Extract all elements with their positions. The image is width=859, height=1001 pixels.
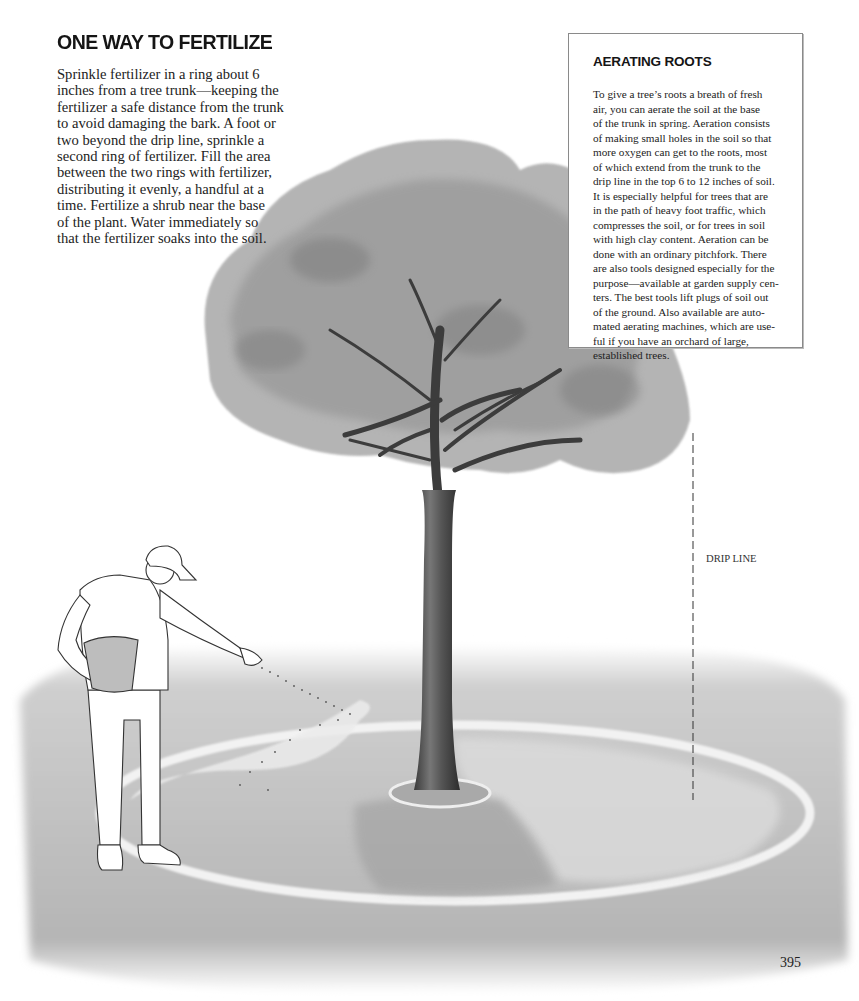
sidebar-title: AERATING ROOTS bbox=[593, 54, 711, 69]
article-line: distributing it evenly, a handful at a bbox=[57, 181, 307, 197]
article-line: to avoid damaging the bark. A foot or bbox=[57, 115, 307, 131]
page-number: 395 bbox=[780, 955, 801, 971]
sidebar-line: are also tools designed especially for t… bbox=[593, 261, 789, 276]
sidebar-line: more oxygen can get to the roots, most bbox=[593, 145, 789, 160]
article-fertilize: ONE WAY TO FERTILIZE Sprinkle fertilizer… bbox=[57, 30, 307, 246]
sidebar-line: of which extend from the trunk to the bbox=[593, 160, 789, 175]
article-line: of the plant. Water immediately so bbox=[57, 214, 307, 230]
sidebar-line: in the path of heavy foot traffic, which bbox=[593, 203, 789, 218]
article-line: two beyond the drip line, sprinkle a bbox=[57, 132, 307, 148]
article-line: inches from a tree trunk—keeping the bbox=[57, 82, 307, 98]
article-line: time. Fertilize a shrub near the base bbox=[57, 197, 307, 213]
article-line: that the fertilizer soaks into the soil. bbox=[57, 230, 307, 246]
sidebar-line: ful if you have an orchard of large, bbox=[593, 334, 789, 349]
sidebar-line: compresses the soil, or for trees in soi… bbox=[593, 218, 789, 233]
sidebar-line: mated aerating machines, which are use- bbox=[593, 319, 789, 334]
drip-line-label: DRIP LINE bbox=[706, 553, 757, 564]
book-page: ONE WAY TO FERTILIZE Sprinkle fertilizer… bbox=[0, 0, 859, 1001]
article-body: Sprinkle fertilizer in a ring about 6 in… bbox=[57, 66, 307, 246]
sidebar-line: established trees. bbox=[593, 348, 789, 363]
sidebar-aerating-roots: AERATING ROOTS To give a tree’s roots a … bbox=[568, 33, 803, 348]
tree-trunk bbox=[414, 490, 460, 790]
sidebar-line: To give a tree’s roots a breath of fresh bbox=[593, 87, 789, 102]
article-line: second ring of fertilizer. Fill the area bbox=[57, 148, 307, 164]
article-line: between the two rings with fertilizer, bbox=[57, 164, 307, 180]
sidebar-line: ters. The best tools lift plugs of soil … bbox=[593, 290, 789, 305]
sidebar-body: To give a tree’s roots a breath of fresh… bbox=[593, 87, 789, 363]
sidebar-line: of the trunk in spring. Aeration consist… bbox=[593, 116, 789, 131]
sidebar-line: air, you can aerate the soil at the base bbox=[593, 102, 789, 117]
article-title: ONE WAY TO FERTILIZE bbox=[57, 30, 290, 54]
sidebar-line: drip line in the top 6 to 12 inches of s… bbox=[593, 174, 789, 189]
sidebar-line: purpose—available at garden supply cen- bbox=[593, 276, 789, 291]
sidebar-line: with high clay content. Aeration can be bbox=[593, 232, 789, 247]
article-line: fertilizer a safe distance from the trun… bbox=[57, 99, 307, 115]
sidebar-line: of the ground. Also available are auto- bbox=[593, 305, 789, 320]
article-line: Sprinkle fertilizer in a ring about 6 bbox=[57, 66, 307, 82]
sidebar-line: It is especially helpful for trees that … bbox=[593, 189, 789, 204]
sidebar-line: done with an ordinary pitchfork. There bbox=[593, 247, 789, 262]
sidebar-line: of making small holes in the soil so tha… bbox=[593, 131, 789, 146]
